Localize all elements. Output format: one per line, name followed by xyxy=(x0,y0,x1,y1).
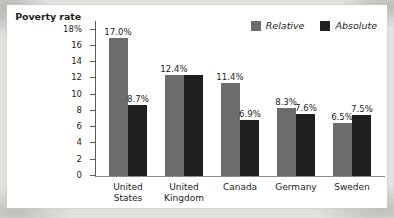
x-category-line1: Canada xyxy=(223,182,257,193)
bar-value-label: 17.0% xyxy=(104,28,131,37)
x-category-label-us: UnitedStates xyxy=(113,182,143,204)
x-category-label-canada: Canada xyxy=(223,182,257,193)
x-category-line2: Kingdom xyxy=(164,193,204,204)
y-tick-label-8: 8 xyxy=(77,106,82,115)
y-tick-label-12: 12 xyxy=(71,73,82,82)
y-tick-label-14: 14 xyxy=(71,57,82,66)
x-category-label-uk: UnitedKingdom xyxy=(164,182,204,204)
bar-value-label: 6.9% xyxy=(239,110,261,119)
bar-sweden-relative[interactable]: 6.5% xyxy=(333,123,352,176)
bar-value-label: 7.6% xyxy=(295,104,317,113)
chart-card: Poverty rate Relative Absolute 024681012… xyxy=(7,5,387,208)
bar-value-label: 12.4% xyxy=(160,65,187,74)
y-tick-label-4: 4 xyxy=(77,138,82,147)
x-category-line1: United xyxy=(113,182,143,193)
x-category-line2: States xyxy=(113,193,143,204)
plot-area: 024681012141618% 17.0%8.7%UnitedStates12… xyxy=(95,21,385,177)
chart-figure: Poverty rate Relative Absolute 024681012… xyxy=(0,0,394,218)
x-category-label-germany: Germany xyxy=(275,182,316,193)
bar-groups: 17.0%8.7%UnitedStates12.4%UnitedKingdom1… xyxy=(95,21,385,176)
y-tick-label-16: 16 xyxy=(71,41,82,50)
bar-uk-absolute[interactable] xyxy=(184,75,203,176)
bar-group: 6.5%7.5%Sweden xyxy=(333,21,371,176)
bar-group: 17.0%8.7%UnitedStates xyxy=(109,21,147,176)
y-tick-label-18: 18% xyxy=(63,24,82,33)
y-axis-title-line1: Poverty xyxy=(15,11,56,22)
bar-value-label: 6.5% xyxy=(331,113,353,122)
bar-us-relative[interactable]: 17.0% xyxy=(109,38,128,176)
y-tick-label-10: 10 xyxy=(71,89,82,98)
y-axis-title: Poverty rate xyxy=(13,11,81,23)
x-category-line1: Sweden xyxy=(334,182,370,193)
x-axis-line xyxy=(95,176,385,177)
bar-germany-relative[interactable]: 8.3% xyxy=(277,108,296,175)
bar-value-label: 8.3% xyxy=(275,98,297,107)
bar-germany-absolute[interactable]: 7.6% xyxy=(296,114,315,176)
bar-uk-relative[interactable]: 12.4% xyxy=(165,75,184,176)
bar-group: 12.4%UnitedKingdom xyxy=(165,21,203,176)
bar-value-label: 11.4% xyxy=(216,73,243,82)
y-tick-label-0: 0 xyxy=(77,171,82,180)
bar-us-absolute[interactable]: 8.7% xyxy=(128,105,147,176)
bar-value-label: 7.5% xyxy=(351,105,373,114)
bar-group: 11.4%6.9%Canada xyxy=(221,21,259,176)
bar-group: 8.3%7.6%Germany xyxy=(277,21,315,176)
bar-canada-relative[interactable]: 11.4% xyxy=(221,83,240,176)
y-tick-label-6: 6 xyxy=(77,122,82,131)
x-category-label-sweden: Sweden xyxy=(334,182,370,193)
bar-sweden-absolute[interactable]: 7.5% xyxy=(352,115,371,176)
x-category-line1: Germany xyxy=(275,182,316,193)
y-tick-label-2: 2 xyxy=(77,154,82,163)
x-category-line1: United xyxy=(164,182,204,193)
bar-value-label: 8.7% xyxy=(127,95,149,104)
bar-canada-absolute[interactable]: 6.9% xyxy=(240,120,259,176)
y-axis-title-line2: rate xyxy=(59,11,81,22)
